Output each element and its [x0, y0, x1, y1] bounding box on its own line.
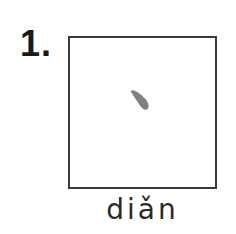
character-box: [68, 36, 217, 189]
pinyin-label: diǎn: [68, 193, 217, 227]
item-number: 1.: [20, 26, 52, 62]
dot-stroke-icon: [129, 88, 153, 112]
